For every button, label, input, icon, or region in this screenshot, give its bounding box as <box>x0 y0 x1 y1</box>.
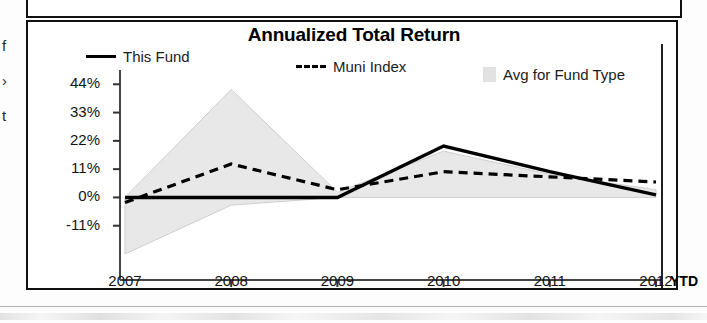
scanned-page: f › t Annualized Total Return This Fund … <box>0 0 707 323</box>
y-axis-tick-1: 33% <box>70 103 100 120</box>
edge-fragment-3: t <box>2 98 22 133</box>
left-edge-text-fragments: f › t <box>2 28 22 133</box>
page-bottom-rule <box>0 306 707 307</box>
y-axis-tick-0: 44% <box>70 74 100 91</box>
plot-svg <box>28 22 676 288</box>
x-axis-tick-2008: 2008 <box>215 272 248 289</box>
x-axis-tick-2009: 2009 <box>321 272 354 289</box>
upper-panel-box <box>26 0 682 18</box>
ytd-annotation: YTD <box>670 273 698 289</box>
y-axis-tick-5: -11% <box>66 216 100 233</box>
x-axis-tick-labels: 200720082009201020112012YTD <box>28 258 676 284</box>
edge-fragment-1: f <box>2 28 22 63</box>
y-axis-tick-4: 0% <box>78 187 100 204</box>
edge-fragment-2: › <box>2 63 22 98</box>
x-axis-tick-2012: 2012 <box>639 272 672 289</box>
scan-smudge-artifact <box>0 313 707 320</box>
y-axis-tick-2: 22% <box>70 131 100 148</box>
y-axis-tick-labels: 44%33%22%11%0%-11% <box>38 22 100 288</box>
annualized-total-return-panel: Annualized Total Return This Fund Muni I… <box>26 20 678 290</box>
x-axis-tick-2007: 2007 <box>108 272 141 289</box>
x-axis-tick-2011: 2011 <box>534 272 566 289</box>
x-axis-tick-2010: 2010 <box>427 272 460 289</box>
y-axis-tick-3: 11% <box>71 159 100 176</box>
plot-area: 44%33%22%11%0%-11% 200720082009201020112… <box>28 22 676 288</box>
